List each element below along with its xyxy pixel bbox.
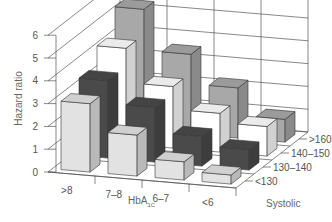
x-axis-title-sub: 1C xyxy=(147,202,155,208)
y-tick-label: 2 xyxy=(32,121,38,132)
z-tick-label: <130 xyxy=(255,176,278,187)
bars xyxy=(61,0,295,184)
bar xyxy=(220,139,259,170)
z-tick-label: >160 xyxy=(309,134,332,145)
y-tick-label: 3 xyxy=(32,98,38,109)
y-axis-title: Hazard ratio xyxy=(13,69,24,129)
x-category-label: >8 xyxy=(61,185,73,196)
bar xyxy=(61,94,100,173)
z-tick-label: 140–150 xyxy=(291,148,330,159)
y-tick-label: 0 xyxy=(32,167,38,178)
z-tick-label: 130–140 xyxy=(273,162,312,173)
y-tick-label: 1 xyxy=(32,144,38,155)
y-tick-label: 5 xyxy=(32,53,38,64)
hazard-ratio-3d-bar-chart: 0123456>87–86–7<6<130130–140140–150>160 … xyxy=(0,0,332,222)
x-axis-title-main: HbA xyxy=(128,195,147,206)
z-axis-title: Systolic xyxy=(266,198,300,209)
x-category-label: <6 xyxy=(202,197,214,208)
y-tick-label: 6 xyxy=(32,30,38,41)
bar xyxy=(155,152,194,180)
y-tick-label: 4 xyxy=(32,75,38,86)
x-axis-title: HbA1C xyxy=(128,195,155,208)
chart-canvas: 0123456>87–86–7<6<130130–140140–150>160 xyxy=(0,0,332,222)
y-axis-ticks: 0123456 xyxy=(32,30,56,178)
x-category-label: 7–8 xyxy=(105,189,122,200)
bar xyxy=(108,125,147,176)
bar xyxy=(202,165,241,184)
